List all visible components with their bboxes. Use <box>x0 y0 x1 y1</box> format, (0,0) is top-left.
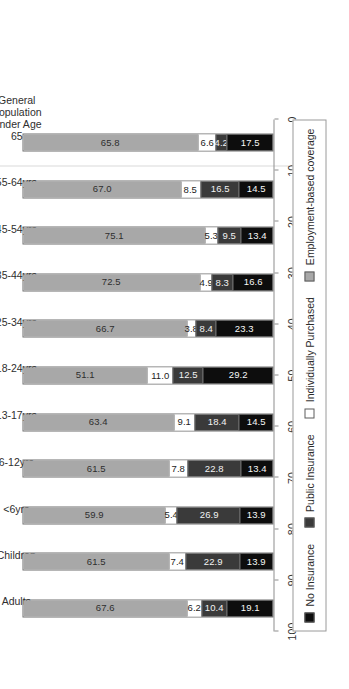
bar-segment[interactable]: 23.3 <box>215 320 272 336</box>
bar-segment[interactable]: 6.2 <box>186 600 201 616</box>
legend-swatch-icon <box>304 271 314 281</box>
bar-segment[interactable]: 26.9 <box>176 507 239 523</box>
bar-segment[interactable]: 8.5 <box>180 181 200 197</box>
bar-segment[interactable]: 8.3 <box>211 274 231 290</box>
bar-segment[interactable]: 12.5 <box>172 367 202 383</box>
legend-item[interactable]: No Insurance <box>303 544 315 622</box>
group-separator <box>0 164 288 166</box>
bar-segment[interactable]: 29.2 <box>202 367 272 383</box>
axis-tick <box>274 630 278 631</box>
stacked-bar[interactable]: 61.57.822.813.4 <box>22 459 273 477</box>
stacked-bar[interactable]: 65.86.64.217.5 <box>22 133 273 151</box>
bar-segment[interactable]: 5.3 <box>204 227 217 243</box>
legend-item[interactable]: Individually Purchased <box>303 297 315 418</box>
bar-value-label: 51.1 <box>75 370 94 380</box>
axis-tick <box>274 220 278 221</box>
axis-tick <box>274 476 278 477</box>
bar-value-label: 7.8 <box>171 463 185 473</box>
legend-item[interactable]: Public Insurance <box>303 434 315 528</box>
bar-slot: 13-17yrs63.49.118.414.5 <box>22 398 273 445</box>
bar-segment[interactable]: 16.6 <box>232 274 272 290</box>
bar-segment[interactable]: 75.1 <box>23 227 204 243</box>
legend-swatch-icon <box>304 612 314 622</box>
bar-slot: <6yrs59.95.426.913.9 <box>22 491 273 538</box>
bar-value-label: 13.4 <box>247 463 266 473</box>
bar-segment[interactable]: 67.6 <box>23 600 186 616</box>
bar-segment[interactable]: 11.0 <box>146 367 172 383</box>
bar-segment[interactable]: 4.9 <box>199 274 211 290</box>
bar-slot: 55-64yrs67.08.516.514.5 <box>22 166 273 213</box>
bar-value-label: 13.9 <box>247 510 266 520</box>
bar-segment[interactable]: 63.4 <box>23 414 173 430</box>
legend-swatch-icon <box>304 517 314 527</box>
legend-item[interactable]: Employment-based coverage <box>303 128 315 281</box>
bar-segment[interactable]: 9.1 <box>173 414 194 430</box>
bar-value-label: 9.5 <box>222 231 236 241</box>
bar-segment[interactable]: 7.8 <box>168 460 186 476</box>
bar-value-label: 13.4 <box>247 231 266 241</box>
bar-segment[interactable]: 3.8 <box>186 320 195 336</box>
bar-value-label: 19.1 <box>240 603 259 613</box>
bar-segment[interactable]: 65.8 <box>23 134 197 150</box>
bar-value-label: 75.1 <box>104 231 123 241</box>
bar-segment[interactable]: 13.4 <box>240 227 272 243</box>
stacked-bar[interactable]: 75.15.39.513.4 <box>22 226 273 244</box>
bar-segment[interactable]: 13.9 <box>239 553 272 569</box>
bar-segment[interactable]: 66.7 <box>23 320 186 336</box>
bar-value-label: 23.3 <box>235 324 254 334</box>
bar-segment[interactable]: 59.9 <box>23 507 164 523</box>
bar-segment[interactable]: 61.5 <box>23 553 168 569</box>
bar-segment[interactable]: 51.1 <box>23 367 146 383</box>
stacked-bar[interactable]: 67.08.516.514.5 <box>22 180 273 198</box>
legend-label: Employment-based coverage <box>303 128 315 265</box>
bar-segment[interactable]: 5.4 <box>164 507 177 523</box>
bar-value-label: 61.5 <box>86 556 105 566</box>
bar-value-label: 8.4 <box>199 324 213 334</box>
bar-slot: 45-54yrs75.15.39.513.4 <box>22 212 273 259</box>
stacked-bar[interactable]: 51.111.012.529.2 <box>22 366 273 384</box>
bar-group: Adults67.66.210.419.1Children61.57.422.9… <box>22 119 273 631</box>
bar-value-label: 5.4 <box>164 510 178 520</box>
bar-segment[interactable]: 22.8 <box>187 460 241 476</box>
axis-tick <box>274 118 278 119</box>
axis-tick <box>274 169 278 170</box>
axis-tick <box>274 374 278 375</box>
bar-value-label: 14.5 <box>246 184 265 194</box>
bar-value-label: 5.3 <box>204 231 218 241</box>
bar-slot: 35-44yrs72.54.98.316.6 <box>22 259 273 306</box>
bar-segment[interactable]: 13.4 <box>240 460 272 476</box>
bar-segment[interactable]: 72.5 <box>23 274 199 290</box>
bar-value-label: 10.4 <box>204 603 223 613</box>
bar-segment[interactable]: 67.0 <box>23 181 180 197</box>
bar-value-label: 13.9 <box>247 556 266 566</box>
bar-segment[interactable]: 6.6 <box>197 134 214 150</box>
axis-tick <box>274 425 278 426</box>
bar-value-label: 11.0 <box>150 370 168 380</box>
bar-segment[interactable]: 7.4 <box>168 553 185 569</box>
bar-segment[interactable]: 18.4 <box>194 414 237 430</box>
bar-segment[interactable]: 19.1 <box>226 600 272 616</box>
bar-segment[interactable]: 22.9 <box>185 553 239 569</box>
bar-segment[interactable]: 17.5 <box>226 134 272 150</box>
bar-segment[interactable]: 9.5 <box>217 227 240 243</box>
bar-segment[interactable]: 14.5 <box>238 181 272 197</box>
bar-value-label: 26.9 <box>199 510 218 520</box>
stacked-bar[interactable]: 61.57.422.913.9 <box>22 552 273 570</box>
bar-segment[interactable]: 4.2 <box>215 134 226 150</box>
stacked-bar[interactable]: 59.95.426.913.9 <box>22 506 273 524</box>
stacked-bar[interactable]: 63.49.118.414.5 <box>22 413 273 431</box>
bar-segment[interactable]: 10.4 <box>201 600 226 616</box>
bar-value-label: 4.9 <box>199 277 213 287</box>
bar-segment[interactable]: 16.5 <box>200 181 239 197</box>
bar-value-label: 66.7 <box>95 324 114 334</box>
bar-value-label: 12.5 <box>178 370 197 380</box>
bar-segment[interactable]: 8.4 <box>195 320 215 336</box>
stacked-bar[interactable]: 72.54.98.316.6 <box>22 273 273 291</box>
bar-value-label: 61.5 <box>86 463 105 473</box>
stacked-bar[interactable]: 67.66.210.419.1 <box>22 599 273 617</box>
bar-segment[interactable]: 13.9 <box>239 507 272 523</box>
bar-slot: 18-24yrs51.111.012.529.2 <box>22 352 273 399</box>
bar-segment[interactable]: 61.5 <box>23 460 168 476</box>
stacked-bar[interactable]: 66.73.88.423.3 <box>22 319 273 337</box>
bar-segment[interactable]: 14.5 <box>238 414 272 430</box>
